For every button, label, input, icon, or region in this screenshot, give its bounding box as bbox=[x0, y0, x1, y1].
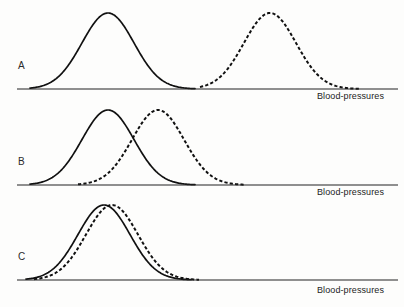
distribution-overlap-figure: A Blood-pressures B Blood-pressures C bbox=[0, 0, 404, 307]
solid-curve-c bbox=[26, 205, 191, 280]
dashed-curve-c bbox=[34, 205, 199, 280]
panel-a-curves bbox=[30, 13, 360, 89]
panel-a: A Blood-pressures bbox=[0, 0, 404, 100]
dashed-curve-a bbox=[200, 13, 360, 89]
solid-curve-b bbox=[30, 110, 195, 185]
panel-c-axis-label: Blood-pressures bbox=[317, 285, 384, 295]
panel-c: C Blood-pressures bbox=[0, 191, 404, 307]
dashed-curve-b bbox=[78, 110, 245, 185]
panel-a-plot bbox=[0, 0, 404, 100]
panel-c-curves bbox=[26, 205, 199, 280]
panel-b-curves bbox=[30, 110, 245, 185]
panel-b: B Blood-pressures bbox=[0, 96, 404, 196]
panel-b-plot bbox=[0, 96, 404, 196]
solid-curve-a bbox=[30, 13, 195, 89]
